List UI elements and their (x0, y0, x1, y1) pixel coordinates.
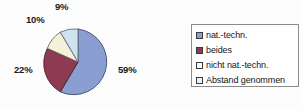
pie-chart-figure: 9% 10% 22% 59% nat.-techn. beides nicht … (0, 0, 302, 110)
pie-label-nat-techn: 59% (118, 64, 136, 75)
chart-legend: nat.-techn. beides nicht nat.-techn. Abs… (191, 24, 299, 87)
legend-swatch-icon (196, 62, 203, 69)
legend-item-label: beides (206, 45, 232, 55)
legend-item-nat-techn: nat.-techn. (196, 28, 298, 42)
pie-label-abstand-genommen: 9% (55, 1, 68, 12)
pie-label-beides: 22% (14, 64, 32, 75)
legend-item-label: nicht nat.-techn. (206, 60, 268, 70)
legend-item-abstand-genommen: Abstand genommen (196, 73, 298, 87)
legend-item-label: nat.-techn. (206, 30, 247, 40)
legend-item-label: Abstand genommen (206, 75, 285, 85)
pie-label-nicht-nat-techn: 10% (26, 14, 44, 25)
legend-item-nicht-nat-techn: nicht nat.-techn. (196, 58, 298, 72)
legend-swatch-icon (196, 77, 203, 84)
legend-item-beides: beides (196, 43, 298, 57)
pie-chart-plot-area: 9% 10% 22% 59% (0, 0, 186, 110)
legend-swatch-icon (196, 47, 203, 54)
legend-swatch-icon (196, 32, 203, 39)
